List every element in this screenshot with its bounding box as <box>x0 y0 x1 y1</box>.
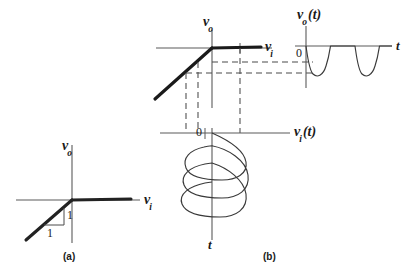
input-waveform-group <box>160 128 290 240</box>
output-plot-t-axis-label: t <box>396 39 400 52</box>
output-curve <box>306 46 392 76</box>
input-plot-origin-label: 0 <box>196 126 202 138</box>
panel-a-trace-flat <box>72 199 131 200</box>
panel-a-group <box>16 145 140 243</box>
panel-a-slope-run-label: 1 <box>47 227 53 239</box>
panel-a-x-axis-label: vi <box>144 193 153 210</box>
caption-b: (b) <box>263 252 276 262</box>
input-plot-t-axis-label: t <box>208 238 212 251</box>
transfer-x-axis-label: vi <box>265 40 274 57</box>
output-plot-y-axis-label: vo(t) <box>297 8 321 25</box>
input-plot-x-axis-label: vi(t) <box>294 125 316 142</box>
output-waveform-group <box>295 26 392 88</box>
transfer-trace-flat <box>212 47 261 48</box>
output-plot-origin-label: 0 <box>296 47 302 59</box>
figure-drawing <box>0 0 410 268</box>
figure-container: vo vi 1 1 (a) vo vi vo(t) 0 t vi(t) 0 t … <box>0 0 410 268</box>
transfer-y-axis-label: vo <box>203 15 214 32</box>
input-sine-curve <box>181 133 248 217</box>
transfer-trace-slope <box>155 48 212 99</box>
panel-a-y-axis-label: vo <box>62 139 73 156</box>
panel-a-slope-rise-label: 1 <box>67 209 73 221</box>
caption-a: (a) <box>63 252 75 262</box>
panel-b-transfer-group <box>155 30 313 133</box>
